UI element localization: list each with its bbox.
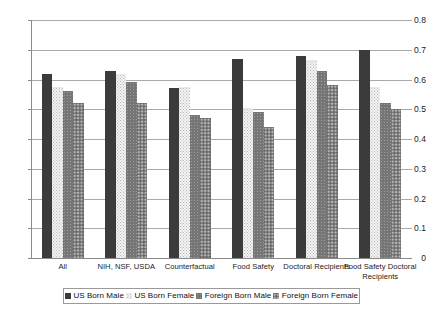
legend-item[interactable]: Foreign Born Male xyxy=(196,292,271,300)
legend-label: Foreign Born Male xyxy=(205,292,272,300)
bar xyxy=(391,109,402,258)
bar xyxy=(327,85,338,258)
bar xyxy=(264,127,275,258)
x-axis-category-label: Food Safety Doctoral Recipients xyxy=(343,262,419,281)
bar xyxy=(137,103,148,258)
legend-swatch-icon xyxy=(65,293,71,299)
bar-group xyxy=(105,20,147,258)
legend-swatch-icon xyxy=(196,293,202,299)
bar xyxy=(190,115,201,258)
bar xyxy=(42,74,53,258)
bar xyxy=(126,82,137,258)
bar xyxy=(317,71,328,258)
bar xyxy=(296,56,307,258)
y-axis-tick-mark xyxy=(28,258,31,259)
bar-group xyxy=(169,20,211,258)
legend-label: US Born Female xyxy=(134,292,194,300)
chart-legend: US Born MaleUS Born FemaleForeign Born M… xyxy=(63,288,360,304)
bar xyxy=(306,60,317,258)
legend-label: Foreign Born Female xyxy=(282,292,358,300)
bar-group xyxy=(296,20,338,258)
bar xyxy=(52,87,63,258)
bar xyxy=(200,118,211,258)
bar xyxy=(169,88,180,258)
legend-item[interactable]: US Born Male xyxy=(65,292,124,300)
legend-item[interactable]: US Born Female xyxy=(126,292,194,300)
bar-chart: 0.80.70.60.50.40.30.20.10 AllNIH, NSF, U… xyxy=(0,0,426,312)
bar xyxy=(105,71,116,258)
legend-item[interactable]: Foreign Born Female xyxy=(273,292,358,300)
bar xyxy=(63,91,74,258)
bar xyxy=(243,108,254,258)
bar xyxy=(370,87,381,258)
legend-swatch-icon xyxy=(126,293,132,299)
bar xyxy=(380,103,391,258)
legend-label: US Born Male xyxy=(73,292,123,300)
bar-group xyxy=(42,20,84,258)
bar xyxy=(179,87,190,258)
bar xyxy=(253,112,264,258)
bar xyxy=(73,103,84,258)
legend-swatch-icon xyxy=(273,293,279,299)
bar xyxy=(116,74,127,258)
bar xyxy=(359,50,370,258)
plot-area xyxy=(31,20,412,258)
bar-group xyxy=(232,20,274,258)
bar xyxy=(232,59,243,258)
x-axis-line xyxy=(31,258,412,259)
bar-group xyxy=(359,20,401,258)
